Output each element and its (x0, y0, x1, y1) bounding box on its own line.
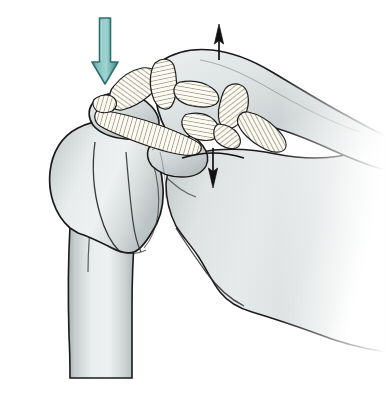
trapezoid-ligament (150, 59, 176, 109)
acromion-tip-ligament (93, 95, 117, 113)
anatomy-figure (0, 0, 386, 415)
shoulder-anatomy-diagram (0, 0, 386, 415)
